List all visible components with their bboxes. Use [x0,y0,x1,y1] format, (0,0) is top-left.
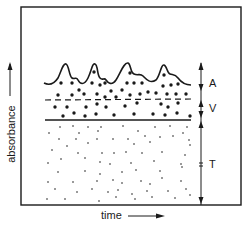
dashed-boundary [45,99,191,100]
diagram-canvas [0,0,249,228]
segment-label-v: V [209,102,216,114]
segment-label-a: A [209,77,216,89]
x-axis-label: time [101,209,122,221]
dimension-arrows [199,62,204,205]
small-dots [46,125,191,202]
y-axis-arrow-icon [8,62,13,96]
y-axis-label: absorbance [5,99,17,169]
x-axis-arrow-icon [128,214,165,219]
absorbance-curve [44,63,191,85]
large-dots [53,70,191,117]
segment-label-t: T [209,158,216,170]
